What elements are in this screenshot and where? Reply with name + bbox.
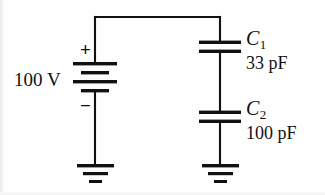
capacitor-c1-plate-top	[199, 41, 241, 44]
capacitor-c2-plate-top	[199, 111, 241, 114]
ground-left-bar-1	[77, 164, 114, 167]
ground-left-bar-2	[83, 172, 108, 175]
battery-plate-long-2	[73, 80, 117, 83]
capacitor-c2-value: 100 pF	[246, 123, 297, 144]
capacitor-c1-name: C1	[246, 28, 288, 52]
ground-left	[77, 164, 114, 183]
capacitor-c1-value: 33 pF	[246, 53, 288, 74]
capacitor-c2-symbol	[199, 111, 241, 123]
capacitor-c2-name-subscript: 2	[260, 107, 267, 122]
capacitor-c1-plate-bottom	[199, 50, 241, 53]
source-voltage-label: 100 V	[14, 70, 61, 89]
battery-plate-long-1	[73, 62, 117, 65]
capacitor-c1-label-group: C1 33 pF	[246, 28, 288, 73]
capacitor-c2-label-group: C2 100 pF	[246, 98, 297, 143]
capacitor-c1-name-letter: C	[246, 27, 259, 49]
battery-plate-short-1	[81, 71, 109, 74]
battery-symbol	[73, 62, 117, 92]
ground-left-bar-3	[89, 180, 102, 183]
ground-right-bar-1	[202, 164, 239, 167]
capacitor-c1-symbol	[199, 41, 241, 53]
ground-right-bar-2	[208, 172, 233, 175]
capacitor-c2-name-letter: C	[246, 97, 259, 119]
ground-right	[202, 164, 239, 183]
ground-right-bar-3	[214, 180, 227, 183]
capacitor-c1-name-subscript: 1	[260, 37, 267, 52]
circuit-diagram-figure: 100 V + − C1 33 pF C2 100 pF	[0, 0, 325, 195]
battery-plate-short-2	[81, 89, 109, 92]
capacitor-c2-plate-bottom	[199, 120, 241, 123]
source-positive-terminal-label: +	[80, 40, 91, 59]
source-negative-terminal-label: −	[80, 96, 91, 115]
capacitor-c2-name: C2	[246, 98, 297, 122]
